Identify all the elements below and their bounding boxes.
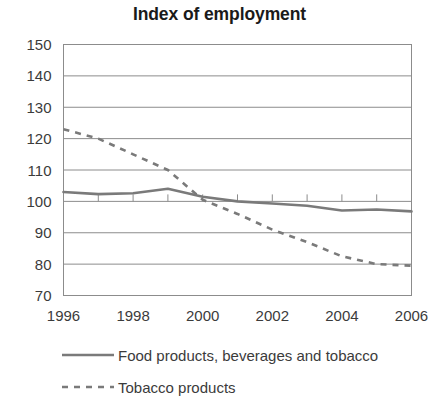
y-tick-label: 150 bbox=[26, 36, 51, 53]
x-tick-label: 2006 bbox=[395, 307, 428, 324]
x-tick-label: 1996 bbox=[47, 307, 80, 324]
legend-item-tobacco-products: Tobacco products bbox=[62, 374, 236, 397]
y-tick-label: 100 bbox=[26, 193, 51, 210]
legend-swatch-dashed-line bbox=[62, 381, 114, 393]
plot-area: 708090100110120130140150 199619982000200… bbox=[0, 0, 439, 340]
chart-legend: Food products, beverages and tobacco Tob… bbox=[0, 337, 439, 397]
legend-label-food-products: Food products, beverages and tobacco bbox=[118, 348, 378, 363]
y-tick-label: 130 bbox=[26, 99, 51, 116]
y-tick-label: 140 bbox=[26, 67, 51, 84]
y-tick-label: 80 bbox=[35, 256, 52, 273]
x-tick-label: 2004 bbox=[325, 307, 358, 324]
x-tick-label: 1998 bbox=[116, 307, 149, 324]
y-tick-label: 70 bbox=[35, 287, 52, 304]
y-tick-label: 120 bbox=[26, 130, 51, 147]
series-line-food-products bbox=[64, 189, 412, 212]
x-tick-label: 2000 bbox=[186, 307, 219, 324]
legend-item-food-products: Food products, beverages and tobacco bbox=[62, 342, 378, 368]
y-axis-labels: 708090100110120130140150 bbox=[26, 36, 51, 304]
gridlines bbox=[64, 76, 412, 264]
chart-figure: Index of employment 70809010011012013014… bbox=[0, 0, 439, 397]
legend-label-tobacco-products: Tobacco products bbox=[118, 380, 236, 395]
x-axis-labels: 199619982000200220042006 bbox=[47, 307, 428, 324]
y-tick-label: 90 bbox=[35, 224, 52, 241]
y-tick-label: 110 bbox=[28, 162, 52, 179]
line-chart-svg: 708090100110120130140150 199619982000200… bbox=[0, 0, 439, 340]
legend-swatch-solid-line bbox=[62, 349, 114, 361]
x-tick-label: 2002 bbox=[256, 307, 289, 324]
